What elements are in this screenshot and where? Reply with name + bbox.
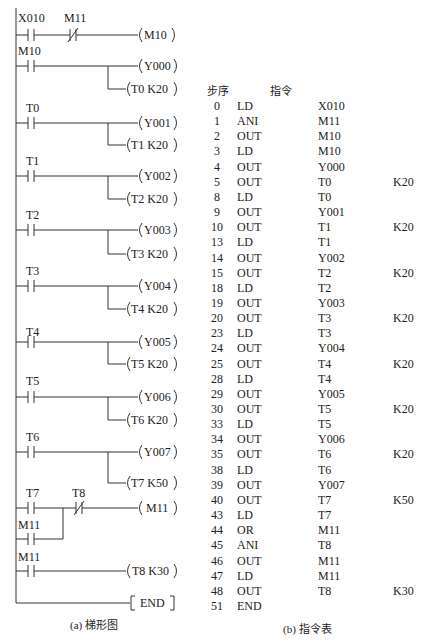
coil-icon (140, 28, 143, 42)
contact-label: M10 (18, 44, 41, 58)
coil-label: Y000 (144, 59, 171, 73)
coil-label: T1 K20 (131, 138, 168, 152)
coil-label: T0 K20 (131, 82, 168, 96)
contact-label: T2 (26, 208, 39, 222)
rung-4: T2 Y003 T3 K20 (16, 208, 177, 261)
rung-6: T4 Y005 T5 K20 (16, 325, 177, 371)
coil-label: T4 K20 (131, 302, 168, 316)
timer-coil-icon (128, 413, 131, 427)
coil-label: Y007 (144, 445, 171, 459)
ladder-diagram: X010 M11 M10 M10 Y000 T0 K20 T0 (0, 0, 427, 641)
timer-coil-icon (128, 138, 131, 152)
coil-icon (140, 501, 143, 515)
coil-label: T6 K20 (131, 413, 168, 427)
contact-label: X010 (18, 11, 45, 25)
contact-label: M11 (64, 11, 86, 25)
coil-icon (140, 335, 143, 349)
coil-icon (140, 279, 143, 293)
contact-label: T3 (26, 264, 39, 278)
coil-label: T8 K30 (132, 564, 169, 578)
rung-9: T7 T8 M11 M11 (16, 486, 177, 545)
coil-label: Y003 (144, 223, 171, 237)
contact-label: M11 (18, 550, 40, 564)
rung-8: T6 Y007 T7 K50 (16, 430, 177, 490)
timer-coil-icon (128, 192, 131, 206)
coil-label: Y002 (144, 169, 171, 183)
coil-label: Y004 (144, 279, 171, 293)
timer-coil-icon (128, 302, 131, 316)
coil-label: M10 (144, 28, 167, 42)
contact-label: T8 (72, 486, 85, 500)
end-label: END (140, 596, 165, 610)
end-instruction: END (16, 596, 174, 610)
contact-label: T1 (26, 154, 39, 168)
coil-icon (140, 390, 143, 404)
contact-label: M11 (18, 518, 40, 532)
timer-coil-icon (128, 82, 131, 96)
contact-label: T0 (26, 101, 39, 115)
coil-icon (140, 223, 143, 237)
rung-1: M10 Y000 T0 K20 (16, 44, 177, 96)
contact-label: T6 (26, 430, 39, 444)
contact-label: T7 (26, 486, 39, 500)
coil-icon (140, 116, 143, 130)
rung-2: T0 Y001 T1 K20 (16, 101, 177, 152)
coil-label: T2 K20 (131, 192, 168, 206)
timer-coil-icon (128, 357, 131, 371)
rung-3: T1 Y002 T2 K20 (16, 154, 177, 206)
rung-7: T5 Y006 T6 K20 (16, 374, 177, 427)
coil-icon (140, 445, 143, 459)
coil-label: T3 K20 (131, 247, 168, 261)
timer-coil-icon (128, 564, 131, 578)
rung-0: X010 M11 M10 (16, 11, 175, 42)
coil-label: T5 K20 (131, 357, 168, 371)
coil-label: Y001 (144, 116, 171, 130)
ladder-caption: (a) 梯形图 (70, 619, 118, 632)
coil-icon (140, 59, 143, 73)
coil-label: Y005 (144, 335, 171, 349)
timer-coil-icon (128, 247, 131, 261)
coil-icon (140, 169, 143, 183)
coil-label: T7 K50 (131, 476, 168, 490)
rung-10: M11 T8 K30 (16, 550, 177, 578)
timer-coil-icon (128, 476, 131, 490)
coil-label: M11 (146, 501, 168, 515)
bracket-icon (131, 596, 135, 610)
coil-label: Y006 (144, 390, 171, 404)
contact-label: T5 (26, 374, 39, 388)
rung-5: T3 Y004 T4 K20 (16, 264, 177, 316)
